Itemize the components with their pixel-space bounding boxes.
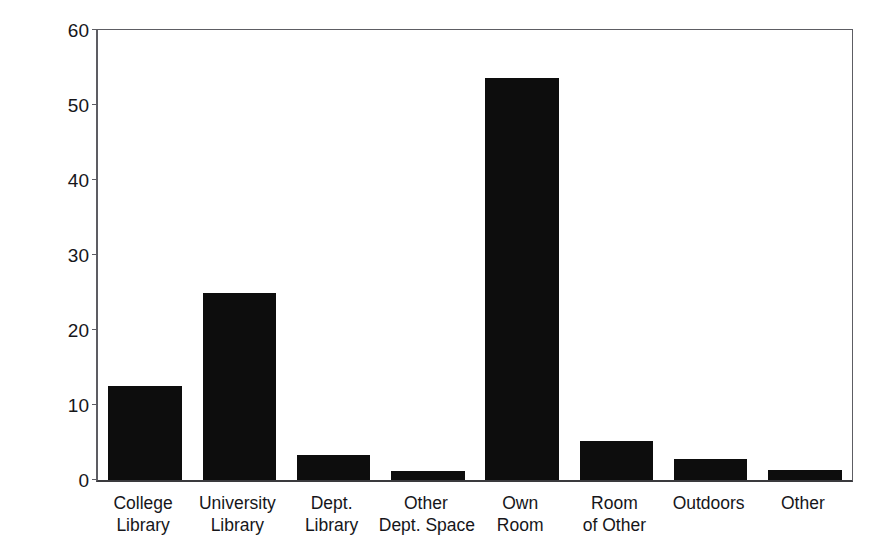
bar-6: [580, 441, 654, 480]
x-axis-tick-label-line: College: [96, 492, 190, 514]
x-axis-tick-label: Roomof Other: [567, 492, 661, 537]
bar-chart-figure: Mean Percent 0102030405060 CollegeLibrar…: [0, 0, 890, 554]
x-axis-tick-label: UniversityLibrary: [190, 492, 284, 537]
bar-5: [485, 78, 559, 480]
x-axis-tick-label-line: Other: [756, 492, 850, 514]
x-axis-tick-labels: CollegeLibraryUniversityLibraryDept.Libr…: [96, 486, 853, 548]
x-axis-tick-label: Other: [756, 492, 850, 514]
x-axis-tick-label-line: Other: [379, 492, 473, 514]
bar-1: [108, 386, 182, 481]
bar-3: [297, 455, 371, 481]
bar-series: [98, 30, 852, 480]
x-axis-tick-label-line: Dept. Space: [379, 514, 473, 536]
x-axis-tick-label: Dept.Library: [285, 492, 379, 537]
y-axis-tick-label: 20: [68, 321, 98, 340]
x-axis-tick-label-line: Dept.: [285, 492, 379, 514]
x-axis-tick-label-line: Room: [567, 492, 661, 514]
x-axis-tick-label: OtherDept. Space: [379, 492, 473, 537]
x-axis-tick-label-line: Library: [190, 514, 284, 536]
y-axis-tick-label: 10: [68, 396, 98, 415]
x-axis-tick-label-line: Library: [96, 514, 190, 536]
x-axis-tick-label: CollegeLibrary: [96, 492, 190, 537]
plot-area: 0102030405060: [96, 29, 853, 482]
x-axis-tick-label-line: Room: [473, 514, 567, 536]
x-axis-tick-label-line: Outdoors: [662, 492, 756, 514]
y-axis-title-text: Mean Percent: [0, 181, 3, 302]
bar-7: [674, 459, 748, 480]
y-axis-tick-label: 30: [68, 246, 98, 265]
bar-4: [391, 471, 465, 480]
x-axis-tick-label: Outdoors: [662, 492, 756, 514]
x-axis-tick-label-line: of Other: [567, 514, 661, 536]
x-axis-tick-label: OwnRoom: [473, 492, 567, 537]
y-axis-tick-label: 50: [68, 96, 98, 115]
bar-8: [768, 470, 842, 481]
x-axis-tick-label-line: Library: [285, 514, 379, 536]
y-axis-tick-label: 40: [68, 171, 98, 190]
y-axis-tick-label: 60: [68, 21, 98, 40]
x-axis-tick-label-line: Own: [473, 492, 567, 514]
bar-2: [203, 293, 277, 481]
y-axis-title: Mean Percent: [0, 0, 62, 482]
x-axis-tick-label-line: University: [190, 492, 284, 514]
